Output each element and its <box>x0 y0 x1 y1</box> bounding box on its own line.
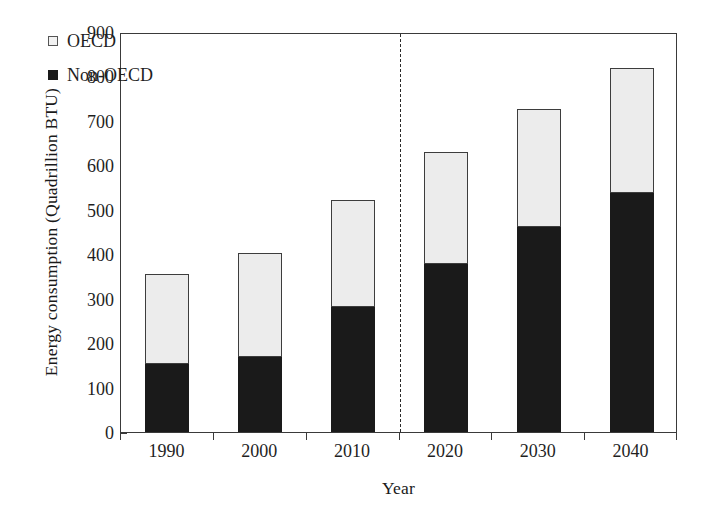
bar-2030 <box>517 109 561 432</box>
bar-segment-oecd <box>610 68 654 193</box>
y-tick-label: 200 <box>62 335 114 353</box>
x-tick-label-2000: 2000 <box>219 441 299 462</box>
bar-segment-oecd <box>424 152 468 264</box>
bar-segment-oecd <box>238 253 282 357</box>
legend-item-non-oecd: Non-OECD <box>48 66 153 84</box>
x-tick-mark <box>399 433 400 440</box>
bar-2040 <box>610 68 654 432</box>
x-axis-title: Year <box>120 478 677 499</box>
x-tick-label-2010: 2010 <box>312 441 392 462</box>
legend-item-oecd: OECD <box>48 32 153 50</box>
plot-area <box>120 33 677 433</box>
x-tick-label-2020: 2020 <box>405 441 485 462</box>
y-tick-label: 100 <box>62 380 114 398</box>
bar-2010 <box>331 200 375 432</box>
bar-segment-non-oecd <box>517 227 561 432</box>
legend-label: OECD <box>67 32 116 50</box>
x-tick-mark <box>213 433 214 440</box>
x-tick-mark <box>584 433 585 440</box>
history-projection-divider <box>400 34 401 432</box>
x-tick-label-2040: 2040 <box>591 441 671 462</box>
x-tick-mark <box>676 433 677 440</box>
y-tick-label: 500 <box>62 202 114 220</box>
bar-segment-non-oecd <box>145 364 189 432</box>
x-tick-mark <box>306 433 307 440</box>
bar-segment-non-oecd <box>331 307 375 432</box>
y-tick-label: 0 <box>62 424 114 442</box>
bar-segment-oecd <box>517 109 561 227</box>
x-tick-label-2030: 2030 <box>498 441 578 462</box>
y-tick-label: 400 <box>62 246 114 264</box>
open-square-icon <box>48 36 58 46</box>
y-tick-label: 300 <box>62 291 114 309</box>
chart-page: Energy consumption (Quadrillion BTU) 010… <box>0 0 709 514</box>
x-tick-mark <box>120 433 121 440</box>
legend-label: Non-OECD <box>67 66 153 84</box>
bar-1990 <box>145 274 189 432</box>
x-axis-tick-labels: 199020002010202020302040 <box>120 441 677 469</box>
bar-segment-non-oecd <box>238 357 282 432</box>
bar-segment-non-oecd <box>610 193 654 432</box>
bar-2020 <box>424 152 468 432</box>
x-tick-label-1990: 1990 <box>126 441 206 462</box>
bar-segment-non-oecd <box>424 264 468 432</box>
bar-segment-oecd <box>145 274 189 364</box>
chart-legend: OECDNon-OECD <box>48 32 153 100</box>
x-tick-mark <box>491 433 492 440</box>
filled-square-icon <box>48 70 58 80</box>
y-tick-label: 600 <box>62 157 114 175</box>
y-tick-label: 700 <box>62 113 114 131</box>
bar-2000 <box>238 253 282 432</box>
bar-segment-oecd <box>331 200 375 307</box>
